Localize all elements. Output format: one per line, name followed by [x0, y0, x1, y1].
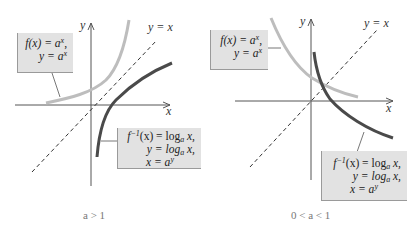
y-axis-label: y [80, 18, 85, 33]
exp-line2: y = a [234, 47, 258, 59]
y-axis-label: y [300, 14, 305, 29]
log-line1-mid: (x) = log [346, 157, 386, 169]
exp-function-box: f(x) = ax, y = ax [17, 33, 73, 73]
exp-comma: , [259, 34, 262, 46]
log-leader [357, 132, 364, 152]
exp-exponent: x [258, 46, 262, 55]
log-line3: x = a [350, 183, 374, 195]
exp-line2: y = a [39, 50, 63, 62]
exp-leader [52, 73, 60, 97]
exp-comma: , [64, 37, 67, 49]
x-axis-label: x [386, 101, 391, 116]
log-line1-arg: x, [390, 157, 401, 169]
log-line1-mid: (x) = log [140, 130, 180, 142]
exp-line1: f(x) = a [25, 37, 60, 49]
log-line2: y = log [147, 143, 180, 155]
log-line3-exponent: y [374, 182, 378, 191]
diagonal-line [250, 30, 377, 167]
exp-function-box: f(x) = ax, y = ax [210, 30, 268, 70]
diagonal-label: y = x [364, 16, 389, 31]
x-axis-label: x [166, 104, 171, 119]
log-line3-exponent: y [170, 155, 174, 164]
log-line1-arg: x, [184, 130, 195, 142]
log-line3: x = a [146, 156, 170, 168]
inverse-exponent: −1 [130, 129, 139, 138]
log-function-box: f−1(x) = loga x, y = loga x, x = ay [321, 151, 407, 201]
log-line2: y = log [353, 170, 386, 182]
diagonal-label: y = x [148, 20, 173, 35]
exp-exponent: x [63, 49, 67, 58]
log-function-box: f−1(x) = loga x, y = loga x, x = ay [117, 128, 201, 169]
inverse-exponent: −1 [336, 156, 345, 165]
log-line2-arg: x, [390, 170, 401, 182]
exp-line1: f(x) = a [220, 34, 255, 46]
log-line2-arg: x, [184, 143, 195, 155]
caption-a-greater-than-1: a > 1 [83, 209, 105, 221]
caption-a-between-0-and-1: 0 < a < 1 [291, 209, 330, 221]
